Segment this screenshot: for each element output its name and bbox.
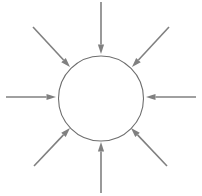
arrow-southeast-shaft <box>138 135 167 166</box>
arrow-south-head-icon <box>98 142 104 152</box>
diagram-canvas <box>0 0 202 196</box>
arrow-northwest <box>33 27 70 67</box>
arrow-north-head-icon <box>98 45 104 55</box>
arrow-southwest-shaft <box>34 135 63 166</box>
arrow-south <box>98 142 104 193</box>
arrow-southwest <box>34 128 70 166</box>
arrow-northwest-shaft <box>33 27 64 60</box>
arrow-northeast-shaft <box>138 27 169 60</box>
arrow-north <box>98 2 104 54</box>
arrow-east-head-icon <box>146 94 156 100</box>
arrow-northeast <box>132 27 169 67</box>
arrow-west-head-icon <box>47 94 57 100</box>
radial-arrows-diagram <box>0 0 202 196</box>
arrow-west <box>6 94 56 100</box>
arrows-group <box>6 2 196 193</box>
arrow-southeast <box>131 128 167 166</box>
arrow-east <box>146 94 196 100</box>
center-circle <box>59 56 144 141</box>
